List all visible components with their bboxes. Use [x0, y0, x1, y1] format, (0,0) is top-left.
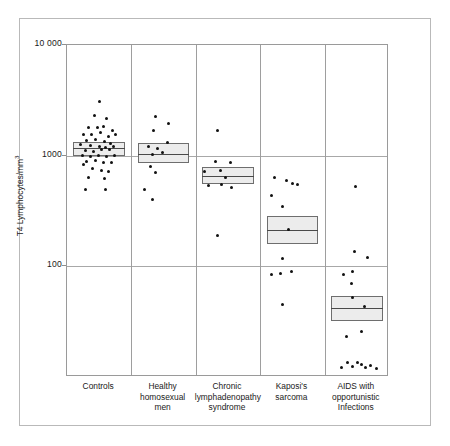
data-point [87, 176, 90, 179]
y-tick-label: 100 [47, 259, 62, 269]
data-point [99, 131, 102, 134]
data-point [89, 155, 92, 158]
plot-area [66, 44, 388, 376]
data-point [230, 186, 233, 189]
data-point [350, 282, 353, 285]
data-point [207, 184, 210, 187]
data-point [353, 250, 356, 253]
data-point [354, 185, 357, 188]
data-point [360, 363, 363, 366]
data-point [105, 117, 108, 120]
data-point [279, 272, 282, 275]
data-point [351, 270, 354, 273]
data-point [87, 126, 90, 129]
x-axis-label-line: lymphadenopathy [195, 392, 259, 403]
data-point [84, 149, 87, 152]
data-point [356, 361, 359, 364]
x-axis-category-3: Chroniclymphadenopathysyndrome [195, 381, 259, 413]
data-point [273, 176, 276, 179]
x-axis-category-1: Controls [66, 381, 130, 392]
x-axis-label-line: Controls [66, 381, 130, 392]
data-point [281, 257, 284, 260]
data-point [167, 122, 170, 125]
x-axis-label-line: opportunistic [324, 392, 388, 403]
data-point [102, 125, 105, 128]
data-point [85, 160, 88, 163]
data-point [151, 153, 154, 156]
data-point [92, 150, 95, 153]
data-point [82, 133, 85, 136]
data-point [81, 154, 84, 157]
y-tick-label: 1000 [42, 149, 62, 159]
data-point [154, 171, 157, 174]
data-point [270, 273, 273, 276]
data-point [109, 142, 112, 145]
data-point [96, 126, 99, 129]
data-point [152, 129, 155, 132]
x-axis-label-line: men [130, 402, 194, 413]
data-point [103, 177, 106, 180]
y-axis-group: T4 Lymphocytes/mm3 10 0001000100 [0, 0, 62, 446]
data-point [112, 145, 115, 148]
y-axis-label-superscript: 3 [13, 155, 20, 158]
data-point [375, 367, 378, 370]
data-point [351, 365, 354, 368]
data-point [214, 160, 217, 163]
data-point [107, 170, 110, 173]
data-point [108, 148, 111, 151]
data-point [281, 205, 284, 208]
data-point [156, 147, 159, 150]
x-axis-label-line: Healthy [130, 381, 194, 392]
data-point [114, 133, 117, 136]
data-point [285, 179, 288, 182]
data-point [346, 361, 349, 364]
data-point [342, 273, 345, 276]
x-axis-category-5: AIDS withopportunisticInfections [324, 381, 388, 413]
x-axis-category-2: Healthyhomosexualmen [130, 381, 194, 413]
panel-divider [260, 45, 261, 375]
y-axis-label: T4 Lymphocytes/mm3 [13, 136, 25, 256]
data-point [111, 129, 114, 132]
data-point [147, 145, 150, 148]
x-axis-label-line: homosexual [130, 392, 194, 403]
data-point [110, 161, 113, 164]
boxplot-median-line [202, 176, 254, 177]
data-point [85, 139, 88, 142]
data-point [229, 161, 232, 164]
data-point [103, 140, 106, 143]
x-axis-label-line: AIDS with [324, 381, 388, 392]
data-point [281, 303, 284, 306]
data-point [369, 364, 372, 367]
data-point [91, 167, 94, 170]
y-tick-label: 10 000 [35, 38, 63, 48]
data-point [82, 163, 85, 166]
data-point [154, 115, 157, 118]
data-point [97, 154, 100, 157]
data-point [291, 182, 294, 185]
data-point [364, 366, 367, 369]
data-point [102, 161, 105, 164]
boxplot-median-line [267, 230, 319, 231]
data-point [166, 141, 169, 144]
gridline-100 [67, 266, 387, 267]
data-point [94, 159, 97, 162]
data-point [104, 146, 107, 149]
data-point [100, 169, 103, 172]
data-point [270, 194, 273, 197]
data-point [290, 270, 293, 273]
data-point [296, 183, 299, 186]
boxplot-median-line [331, 308, 383, 309]
data-point [107, 135, 110, 138]
panel-divider [325, 45, 326, 375]
data-point [149, 165, 152, 168]
data-point [94, 138, 97, 141]
data-point [220, 183, 223, 186]
data-point [340, 366, 343, 369]
x-axis-label-line: sarcoma [259, 392, 323, 403]
data-point [366, 256, 369, 259]
y-axis-label-text: T4 Lymphocytes/mm [15, 159, 25, 236]
panel-divider [131, 45, 132, 375]
data-point [90, 133, 93, 136]
data-point [93, 114, 96, 117]
x-axis-label-line: Chronic [195, 381, 259, 392]
